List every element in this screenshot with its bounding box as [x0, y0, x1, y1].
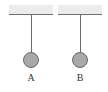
- label-b: B: [72, 72, 88, 83]
- string-a: [31, 14, 32, 52]
- bob-a: [23, 52, 39, 68]
- string-b: [80, 14, 81, 52]
- bob-b: [72, 52, 88, 68]
- label-a: A: [23, 72, 39, 83]
